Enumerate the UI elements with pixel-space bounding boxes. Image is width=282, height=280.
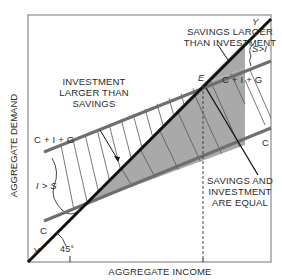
investment-pointer — [100, 130, 118, 160]
y-bottom-label: Y — [33, 245, 40, 256]
investment-larger-label: INVESTMENT LARGER THAN SAVINGS — [54, 76, 134, 109]
y-axis-label: AGGREGATE DEMAND — [8, 91, 19, 201]
angle-label: 45° — [60, 244, 74, 255]
i-gt-s-label: I > S — [36, 180, 57, 191]
text: INVESTMENT — [206, 186, 274, 197]
cig-right-label: C + I + G — [222, 74, 262, 85]
text: ARE EQUAL — [206, 197, 274, 208]
x-axis-label: AGGREGATE INCOME — [100, 266, 220, 277]
c-left-label: C — [40, 225, 47, 236]
s-gt-i-label: S>I — [252, 43, 267, 54]
text: LARGER THAN — [54, 87, 134, 98]
c-right-label: C — [262, 137, 269, 148]
text: SAVINGS — [54, 98, 134, 109]
text: SAVINGS LARGER — [170, 26, 282, 37]
y-top-label: Y — [252, 16, 259, 27]
equal-label: SAVINGS AND INVESTMENT ARE EQUAL — [206, 175, 274, 208]
cig-left-label: C + I + G — [34, 134, 74, 145]
text: INVESTMENT — [54, 76, 134, 87]
text: SAVINGS AND — [206, 175, 274, 186]
e-point-label: E — [198, 72, 205, 83]
